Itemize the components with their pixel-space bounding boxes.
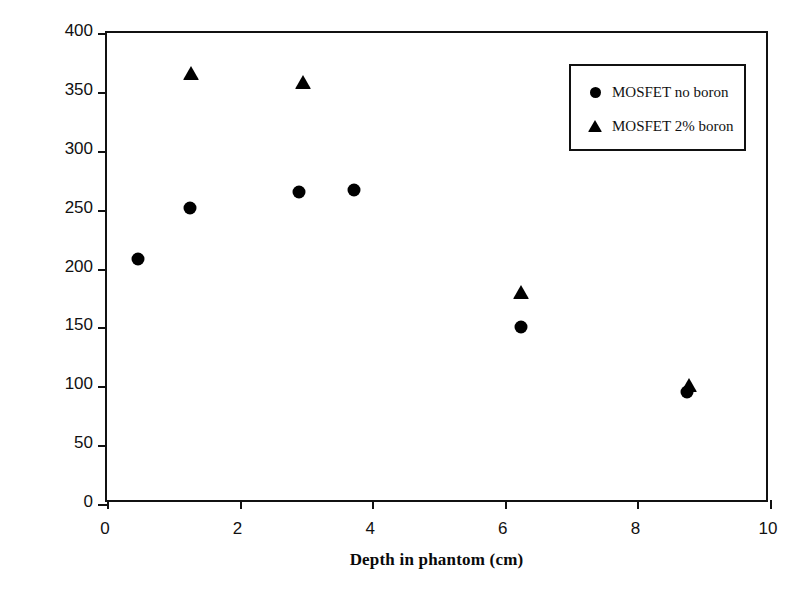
y-axis-tick-label: 150 (27, 316, 93, 333)
x-axis-tick (240, 500, 242, 509)
triangle-marker-icon (585, 120, 605, 132)
y-axis-tick-label: 200 (27, 258, 93, 275)
y-axis-tick (98, 151, 107, 153)
x-axis-tick (372, 500, 374, 509)
plot-area: MOSFET no boron MOSFET 2% boron (105, 31, 768, 502)
x-axis-tick-label: 10 (738, 520, 798, 537)
y-axis-tick-label: 250 (27, 199, 93, 216)
y-axis-tick (98, 269, 107, 271)
y-axis-tick-label: 100 (27, 375, 93, 392)
x-axis-tick (770, 500, 772, 509)
x-axis-title: Depth in phantom (cm) (105, 550, 768, 570)
x-axis-title-text: Depth in phantom (cm) (350, 550, 524, 569)
legend-item-label: MOSFET 2% boron (612, 118, 733, 135)
x-axis-tick-label: 4 (340, 520, 400, 537)
data-point-triangle (681, 378, 697, 392)
legend-item-label: MOSFET no boron (612, 84, 728, 101)
y-axis-tick-label: 400 (27, 22, 93, 39)
x-axis-tick (637, 500, 639, 509)
data-point-circle (293, 185, 306, 198)
y-axis-tick-label: 300 (27, 140, 93, 157)
y-axis-tick (98, 445, 107, 447)
x-axis-tick-label: 6 (473, 520, 533, 537)
x-axis-tick-label: 0 (75, 520, 135, 537)
y-axis-tick (98, 386, 107, 388)
y-axis-tick-label: 350 (27, 81, 93, 98)
y-axis-tick-label: 0 (27, 493, 93, 510)
data-point-circle (183, 202, 196, 215)
x-axis-tick-label: 8 (605, 520, 665, 537)
circle-marker-icon (585, 87, 605, 98)
y-axis-tick-label: 50 (27, 434, 93, 451)
data-point-triangle (295, 75, 311, 89)
data-point-circle (132, 253, 145, 266)
data-point-circle (515, 321, 528, 334)
legend-item: MOSFET 2% boron (585, 109, 744, 143)
data-point-triangle (513, 285, 529, 299)
x-axis-tick-label: 2 (208, 520, 268, 537)
chart-figure: Threshold voltage change (mV) MOSFET no … (0, 0, 798, 598)
data-point-triangle (183, 66, 199, 80)
y-axis-tick (98, 92, 107, 94)
x-axis-tick (505, 500, 507, 509)
x-axis-tick (107, 500, 109, 509)
y-axis-tick (98, 33, 107, 35)
data-point-circle (347, 183, 360, 196)
y-axis-tick (98, 504, 107, 506)
legend-item: MOSFET no boron (585, 75, 744, 109)
chart-legend: MOSFET no boron MOSFET 2% boron (569, 64, 746, 151)
y-axis-tick (98, 210, 107, 212)
y-axis-tick (98, 327, 107, 329)
